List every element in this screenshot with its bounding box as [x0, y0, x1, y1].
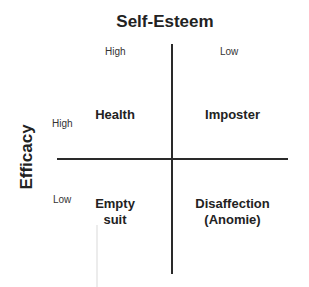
quadrant-empty-suit: Empty suit [80, 196, 150, 228]
quadrant-empty-suit-line1: Empty [80, 196, 150, 212]
quadrant-disaffection-line1: Disaffection [185, 196, 280, 212]
matrix-diagram: Self-Esteem High Low Efficacy High Low H… [0, 0, 309, 287]
quadrant-imposter: Imposter [195, 107, 270, 123]
scan-artifact-line [96, 225, 98, 287]
self-esteem-high-label: High [105, 46, 126, 57]
quadrant-disaffection: Disaffection (Anomie) [185, 196, 280, 228]
quadrant-disaffection-line2: (Anomie) [185, 212, 280, 228]
quadrant-empty-suit-line2: suit [80, 212, 150, 228]
self-esteem-low-label: Low [220, 46, 238, 57]
quadrant-health: Health [80, 107, 150, 123]
efficacy-axis-title: Efficacy [17, 117, 37, 197]
self-esteem-axis-title: Self-Esteem [0, 12, 309, 32]
efficacy-high-label: High [52, 118, 73, 129]
efficacy-low-label: Low [53, 194, 71, 205]
horizontal-axis-divider [57, 158, 288, 160]
